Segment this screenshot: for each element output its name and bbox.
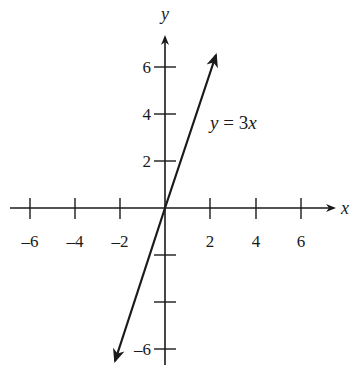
chart: –6 –4 –2 2 4 6 6 4 2 –6 y x y = 3x [0,0,352,365]
x-tick-label: –4 [66,232,85,251]
x-axis-label: x [340,198,349,218]
x-tick-label: –6 [21,232,39,251]
line-y-3x [115,208,165,361]
y-tick-label: 6 [143,58,152,77]
x-tick-label: –2 [111,232,129,251]
x-tick-label: 6 [297,232,306,251]
y-tick-label: –6 [133,340,151,359]
y-axis-label: y [159,4,169,24]
line-y-3x [165,55,216,208]
y-tick-label: 2 [143,152,152,171]
equation-label: y = 3x [208,112,257,133]
x-tick-label: 4 [252,232,261,251]
y-tick-label: 4 [143,105,152,124]
x-tick-label: 2 [206,232,215,251]
